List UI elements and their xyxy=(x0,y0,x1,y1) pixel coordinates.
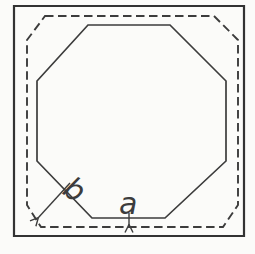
dimension-a-label: a xyxy=(119,186,137,221)
diagram-canvas: b a xyxy=(0,0,255,254)
octagon-chamfer-diagram: b a xyxy=(0,0,255,254)
dimension-b-label: b xyxy=(57,170,92,210)
